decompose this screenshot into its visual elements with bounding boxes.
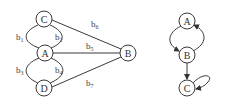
edge-label-b5: b5 [86,41,94,52]
svg-text:C: C [41,14,48,25]
svg-text:A: A [183,16,191,27]
svg-text:B: B [125,48,132,59]
right-graph: A B C [170,13,210,96]
node-c: C [36,11,52,27]
svg-text:C: C [184,83,191,94]
edge-b-to-a [193,25,204,51]
edge-b1 [26,25,39,48]
node-c: C [179,80,195,96]
svg-text:B: B [184,50,191,61]
edge-a-to-b [170,26,181,51]
graph-figure: b1 b2 b3 b4 b5 b6 b7 C A D B [0,0,226,108]
edge-c-self-loop [193,76,210,89]
edge-label-b3: b3 [16,65,24,76]
edge-label-b4: b4 [55,65,63,76]
edge-label-b6: b6 [91,19,99,30]
node-d: D [36,80,52,96]
node-b: B [120,45,136,61]
node-b: B [179,47,195,63]
edge-b3 [26,58,39,83]
node-a: A [37,45,53,61]
edge-label-b1: b1 [16,32,24,43]
node-a: A [179,13,195,29]
left-graph: b1 b2 b3 b4 b5 b6 b7 C A D B [16,11,136,96]
svg-text:A: A [41,48,49,59]
svg-text:D: D [40,83,47,94]
edge-label-b7: b7 [86,78,94,89]
